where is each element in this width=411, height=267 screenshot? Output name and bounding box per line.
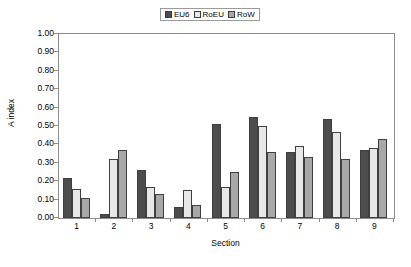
plot-area <box>58 33 395 219</box>
bars-layer <box>59 34 394 218</box>
legend-entry-row: RoW <box>228 10 255 19</box>
y-tick-label: 0.00 <box>37 213 54 222</box>
bar-row-section-4 <box>192 205 201 218</box>
y-tick-label: 1.00 <box>37 29 54 38</box>
bar-row-section-9 <box>378 139 387 218</box>
x-tick-mark <box>393 218 394 222</box>
y-tick-label: 0.50 <box>37 121 54 130</box>
y-tick-label: 0.40 <box>37 139 54 148</box>
bar-eu6-section-5 <box>212 124 221 218</box>
bar-row-section-6 <box>267 152 276 218</box>
bar-roeu-section-7 <box>295 146 304 218</box>
legend-entry-roeu: RoEU <box>194 10 224 19</box>
x-tick-label: 8 <box>335 221 340 231</box>
bar-roeu-section-8 <box>332 132 341 218</box>
bar-row-section-3 <box>155 194 164 218</box>
x-axis-tick-labels: 123456789 <box>58 221 393 233</box>
x-tick-label: 2 <box>111 221 116 231</box>
y-tick-label: 0.70 <box>37 84 54 93</box>
bar-roeu-section-9 <box>369 148 378 218</box>
y-tick-label: 0.90 <box>37 47 54 56</box>
legend-label: RoW <box>237 10 255 19</box>
bar-eu6-section-8 <box>323 119 332 218</box>
bar-eu6-section-3 <box>137 170 146 218</box>
y-axis-tick-labels: 0.000.100.200.300.400.500.600.700.800.90… <box>22 33 54 217</box>
y-axis-title: A index <box>6 83 16 143</box>
y-tick-label: 0.30 <box>37 157 54 166</box>
bar-eu6-section-2 <box>100 214 109 218</box>
legend-swatch-icon <box>165 11 172 18</box>
bar-roeu-section-3 <box>146 187 155 218</box>
bar-eu6-section-7 <box>286 152 295 218</box>
x-tick-label: 6 <box>260 221 265 231</box>
bar-roeu-section-4 <box>183 190 192 218</box>
bar-row-section-8 <box>341 159 350 218</box>
y-tick-label: 0.60 <box>37 102 54 111</box>
legend-swatch-icon <box>194 11 201 18</box>
legend-swatch-icon <box>228 11 235 18</box>
bar-eu6-section-9 <box>360 150 369 218</box>
y-tick-label: 0.10 <box>37 194 54 203</box>
x-tick-label: 3 <box>149 221 154 231</box>
bar-roeu-section-5 <box>221 187 230 218</box>
x-tick-label: 7 <box>298 221 303 231</box>
bar-row-section-7 <box>304 157 313 218</box>
y-tick-label: 0.80 <box>37 65 54 74</box>
chart-legend: EU6RoEURoW <box>160 8 260 21</box>
bar-eu6-section-6 <box>249 117 258 218</box>
bar-eu6-section-1 <box>63 178 72 218</box>
x-tick-label: 4 <box>186 221 191 231</box>
bar-eu6-section-4 <box>174 207 183 218</box>
y-tick-label: 0.20 <box>37 176 54 185</box>
bar-row-section-2 <box>118 150 127 218</box>
legend-label: EU6 <box>174 10 190 19</box>
bar-row-section-1 <box>81 198 90 218</box>
x-tick-label: 9 <box>372 221 377 231</box>
bar-roeu-section-1 <box>72 189 81 218</box>
bar-roeu-section-6 <box>258 126 267 218</box>
bar-row-section-5 <box>230 172 239 218</box>
x-axis-title: Section <box>58 238 393 248</box>
x-tick-label: 5 <box>223 221 228 231</box>
legend-entry-eu6: EU6 <box>165 10 190 19</box>
bar-chart: EU6RoEURoW A index 0.000.100.200.300.400… <box>0 0 411 267</box>
legend-label: RoEU <box>203 10 224 19</box>
bar-roeu-section-2 <box>109 159 118 218</box>
x-tick-label: 1 <box>74 221 79 231</box>
